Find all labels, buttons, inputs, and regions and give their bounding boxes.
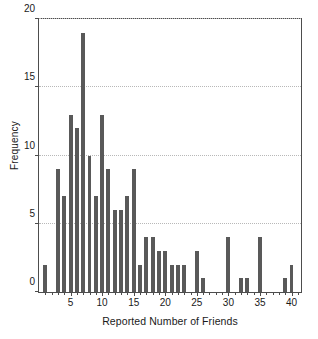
bar <box>75 128 79 292</box>
x-tick-34 <box>254 292 255 295</box>
x-tick-35 <box>260 292 261 296</box>
x-tick-label-15: 15 <box>128 297 139 308</box>
bar <box>132 169 136 292</box>
bar <box>106 169 110 292</box>
x-tick-3 <box>58 292 59 295</box>
bar <box>283 278 287 292</box>
x-tick-18 <box>153 292 154 295</box>
bar <box>176 265 180 292</box>
y-axis-label: Frequency <box>9 101 20 191</box>
x-tick-15 <box>134 292 135 296</box>
y-tick-label-10: 10 <box>24 139 35 150</box>
bar <box>62 196 66 292</box>
bar <box>245 278 249 292</box>
x-tick-13 <box>121 292 122 295</box>
y-tick-0 <box>35 291 39 292</box>
x-tick-9 <box>96 292 97 295</box>
x-axis-label: Reported Number of Friends <box>38 315 302 327</box>
y-tick-label-20: 20 <box>24 3 35 14</box>
bar <box>43 265 47 292</box>
x-tick-10 <box>102 292 103 296</box>
x-tick-20 <box>165 292 166 296</box>
gridline-y-20 <box>39 18 301 19</box>
bar <box>138 265 142 292</box>
x-tick-32 <box>241 292 242 295</box>
bar <box>258 237 262 292</box>
x-tick-26 <box>203 292 204 295</box>
y-tick-20 <box>35 18 39 19</box>
x-tick-25 <box>197 292 198 296</box>
bar <box>170 265 174 292</box>
bar <box>100 115 104 292</box>
bar <box>290 265 294 292</box>
gridline-y-15 <box>39 86 301 87</box>
x-tick-label-30: 30 <box>223 297 234 308</box>
y-tick-5 <box>35 223 39 224</box>
x-tick-17 <box>146 292 147 295</box>
bar <box>119 210 123 292</box>
x-tick-label-10: 10 <box>97 297 108 308</box>
x-tick-2 <box>52 292 53 295</box>
bar <box>163 251 167 292</box>
plot-area: 05101520510152025303540 <box>38 18 302 293</box>
x-tick-label-20: 20 <box>160 297 171 308</box>
bar <box>239 278 243 292</box>
x-tick-7 <box>83 292 84 295</box>
x-tick-label-40: 40 <box>286 297 297 308</box>
x-tick-28 <box>216 292 217 295</box>
x-tick-29 <box>222 292 223 295</box>
x-tick-24 <box>191 292 192 295</box>
x-tick-36 <box>266 292 267 295</box>
x-tick-31 <box>235 292 236 295</box>
histogram-chart: Frequency 05101520510152025303540 Report… <box>0 0 318 339</box>
x-tick-22 <box>178 292 179 295</box>
x-tick-1 <box>45 292 46 295</box>
x-tick-40 <box>292 292 293 296</box>
x-tick-label-35: 35 <box>254 297 265 308</box>
x-tick-27 <box>209 292 210 295</box>
x-tick-4 <box>64 292 65 295</box>
bar <box>56 169 60 292</box>
x-tick-label-5: 5 <box>68 297 74 308</box>
bar <box>201 278 205 292</box>
x-tick-23 <box>184 292 185 295</box>
x-tick-12 <box>115 292 116 295</box>
bar <box>182 265 186 292</box>
x-tick-8 <box>90 292 91 295</box>
bar <box>195 251 199 292</box>
plot-inner <box>39 19 301 292</box>
bar <box>94 196 98 292</box>
bar <box>125 196 129 292</box>
x-tick-16 <box>140 292 141 295</box>
x-tick-label-25: 25 <box>191 297 202 308</box>
bar <box>151 237 155 292</box>
x-tick-41 <box>298 292 299 295</box>
x-tick-30 <box>228 292 229 296</box>
x-tick-38 <box>279 292 280 295</box>
x-tick-37 <box>273 292 274 295</box>
y-tick-label-15: 15 <box>24 71 35 82</box>
x-tick-33 <box>247 292 248 295</box>
bar <box>226 237 230 292</box>
bar <box>88 156 92 293</box>
bar <box>81 33 85 292</box>
bar <box>113 210 117 292</box>
y-tick-label-5: 5 <box>29 207 35 218</box>
y-tick-15 <box>35 86 39 87</box>
x-tick-21 <box>172 292 173 295</box>
x-tick-14 <box>127 292 128 295</box>
x-tick-11 <box>108 292 109 295</box>
bar <box>144 237 148 292</box>
y-tick-10 <box>35 155 39 156</box>
bar <box>157 251 161 292</box>
x-tick-19 <box>159 292 160 295</box>
x-tick-39 <box>285 292 286 295</box>
bar <box>69 115 73 292</box>
x-tick-5 <box>71 292 72 296</box>
x-tick-6 <box>77 292 78 295</box>
y-tick-label-0: 0 <box>29 276 35 287</box>
